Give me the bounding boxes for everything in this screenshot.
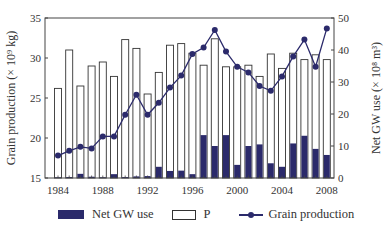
grain-point [167,85,173,91]
right-axis-title: Net GW use (× 10⁸ m³) [369,42,383,154]
legend-label-grain: Grain production [269,207,355,222]
grain-point [77,144,83,150]
left-tick-label: 25 [30,92,42,104]
p-bar [155,72,162,178]
grain-point [89,145,95,151]
p-bar [99,62,106,178]
left-tick-label: 35 [30,12,42,24]
grain-point [301,37,307,43]
grain-point [234,64,240,70]
net-gw-bar [257,144,263,178]
left-tick-label: 30 [30,52,42,64]
grain-point [313,64,319,70]
grain-point [279,73,285,79]
net-gw-bar [324,155,330,178]
right-tick-label: 20 [338,108,350,120]
net-gw-bar [223,135,229,178]
x-tick-label: 1992 [137,184,159,196]
legend: Net GW use P Grain production [58,207,372,222]
p-bar [144,94,151,178]
legend-item-p: P [172,207,211,222]
p-bar [55,88,62,178]
p-bar [167,45,174,178]
right-tick-label: 30 [338,76,350,88]
grain-point [156,100,162,106]
grain-point [133,92,139,98]
net-gw-bar [301,136,307,178]
grain-point [55,153,61,159]
p-bar [77,86,84,178]
p-bar [111,76,118,178]
net-gw-bar [201,135,207,178]
p-swatch-icon [172,210,196,220]
grain-point [100,133,106,139]
x-tick-label: 2004 [271,184,294,196]
chart: 1520253035 01020304050 19841988199219962… [0,0,392,231]
grain-point [257,83,263,89]
p-bar [234,67,241,178]
net-gw-bar [313,149,319,178]
legend-label-net-gw: Net GW use [92,207,154,222]
p-bar [133,48,140,178]
grain-point [111,133,117,139]
grain-point [223,49,229,55]
net-gw-bar [245,146,251,178]
right-tick-label: 0 [338,172,344,184]
right-tick-label: 50 [338,12,350,24]
right-tick-label: 10 [338,140,350,152]
x-tick-label: 1988 [92,184,115,196]
grain-point [324,25,330,31]
p-bar [122,40,129,178]
p-bar [267,54,274,178]
p-bars [55,39,331,178]
grain-point [145,112,151,118]
grain-point [212,27,218,33]
line-marker-swatch-icon [239,210,263,219]
left-axis-title: Grain production (× 10⁹ kg) [4,31,18,165]
net-gw-bar [212,146,218,178]
grain-point [290,53,296,59]
grain-point [268,88,274,94]
p-bar [88,66,95,178]
grain-point [178,73,184,79]
grain-point [66,148,72,154]
p-bar [66,50,73,178]
legend-label-p: P [204,207,211,222]
net-gw-bar [290,143,296,178]
left-tick-label: 20 [30,132,42,144]
legend-item-net-gw: Net GW use [58,207,154,222]
x-tick-label: 2000 [226,184,249,196]
legend-item-grain: Grain production [239,207,355,222]
x-tick-label: 2008 [316,184,339,196]
left-tick-label: 15 [30,172,42,184]
grain-point [245,69,251,75]
x-axis: 1984198819921996200020042008 [47,176,338,197]
net-gw-swatch-icon [58,210,84,219]
p-bar [178,44,185,178]
x-tick-label: 1996 [181,184,204,196]
grain-point [189,51,195,57]
grain-point [201,45,207,51]
right-tick-label: 40 [338,44,350,56]
p-bar [279,68,286,178]
p-bar [189,53,196,178]
grain-point [122,112,128,118]
x-tick-label: 1984 [47,184,70,196]
